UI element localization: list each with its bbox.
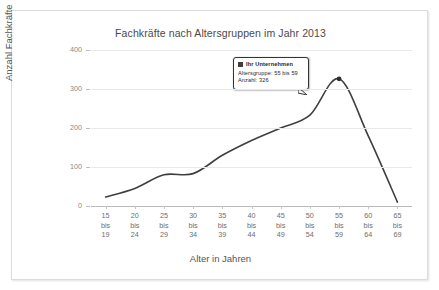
- chart-card-frame: Fachkräfte nach Altersgruppen im Jahr 20…: [11, 10, 428, 280]
- data-point-tooltip: Ihr Unternehmen Altersgruppe: 55 bis 59 …: [233, 57, 309, 90]
- x-tick-label: 65bis69: [374, 211, 420, 240]
- y-tick-label: 400: [42, 45, 82, 54]
- y-tick-mark: [86, 89, 90, 90]
- gridline: [91, 128, 412, 129]
- x-tick-mark: [368, 206, 369, 209]
- y-tick-mark: [86, 128, 90, 129]
- tooltip-count: Anzahl: 326: [238, 77, 304, 83]
- x-tick-mark: [397, 206, 398, 209]
- y-tick-label: 0: [42, 201, 82, 210]
- screenshot-root: Fachkräfte nach Altersgruppen im Jahr 20…: [0, 0, 439, 290]
- x-tick-mark: [193, 206, 194, 209]
- x-tick-mark: [310, 206, 311, 209]
- x-tick-mark: [281, 206, 282, 209]
- tooltip-header: Ihr Unternehmen: [238, 61, 304, 67]
- x-tick-mark: [252, 206, 253, 209]
- x-tick-mark: [106, 206, 107, 209]
- gridline: [91, 50, 412, 51]
- highlighted-data-point: [337, 76, 342, 81]
- y-tick-label: 300: [42, 84, 82, 93]
- x-tick-mark: [135, 206, 136, 209]
- chart-figure: Fachkräfte nach Altersgruppen im Jahr 20…: [12, 11, 429, 281]
- y-tick-label: 200: [42, 123, 82, 132]
- tooltip-series-name: Ihr Unternehmen: [246, 61, 293, 67]
- gridline: [91, 167, 412, 168]
- y-tick-mark: [86, 167, 90, 168]
- x-tick-mark: [222, 206, 223, 209]
- y-tick-mark: [86, 206, 90, 207]
- gridline: [91, 89, 412, 90]
- x-tick-mark: [339, 206, 340, 209]
- y-tick-mark: [86, 50, 90, 51]
- line-series-ihr-unternehmen: [106, 79, 398, 203]
- y-tick-label: 100: [42, 162, 82, 171]
- tooltip-age-group: Altersgruppe: 55 bis 59: [238, 70, 304, 76]
- series-color-swatch-icon: [238, 62, 243, 67]
- x-tick-mark: [164, 206, 165, 209]
